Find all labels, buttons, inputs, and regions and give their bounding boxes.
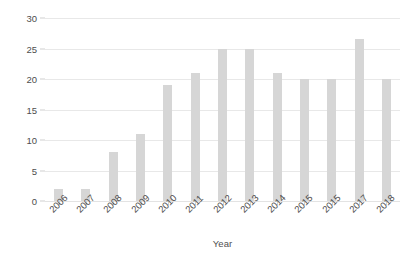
plot-area (45, 18, 400, 201)
bar-slot (127, 18, 154, 201)
bar[interactable] (300, 79, 309, 201)
x-axis-ticks: 2006200720082009201020112012201320142015… (45, 201, 400, 237)
bar-slot (263, 18, 290, 201)
bar-slot (236, 18, 263, 201)
bar[interactable] (355, 39, 364, 201)
y-tick-label: 0 (32, 196, 37, 207)
bar[interactable] (163, 85, 172, 201)
y-tick-label: 15 (26, 104, 37, 115)
bar-slot (182, 18, 209, 201)
bar[interactable] (218, 49, 227, 202)
y-tick-label: 20 (26, 74, 37, 85)
y-tick-label: 5 (32, 165, 37, 176)
bar-slot (291, 18, 318, 201)
bar[interactable] (191, 73, 200, 201)
y-tick-label: 25 (26, 43, 37, 54)
bar[interactable] (273, 73, 282, 201)
bar[interactable] (382, 79, 391, 201)
y-tick-label: 10 (26, 135, 37, 146)
bar[interactable] (327, 79, 336, 201)
bars-layer (45, 18, 400, 201)
y-axis-ticks: 051015202530 (0, 18, 45, 201)
x-axis-title: Year (45, 238, 400, 249)
bar-slot (209, 18, 236, 201)
bar-slot (318, 18, 345, 201)
bar[interactable] (245, 49, 254, 202)
bar-slot (100, 18, 127, 201)
bar-slot (345, 18, 372, 201)
bar-slot (72, 18, 99, 201)
y-tick-label: 30 (26, 13, 37, 24)
bar-slot (45, 18, 72, 201)
bar-slot (154, 18, 181, 201)
bar-slot (373, 18, 400, 201)
bar-chart-figure: No. of Completed Trials 051015202530 200… (0, 0, 404, 262)
